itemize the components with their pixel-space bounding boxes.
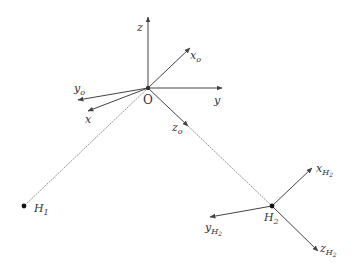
label-z: z xyxy=(137,22,143,33)
axis-zh2-arrow xyxy=(272,206,318,251)
axis-zo-arrow xyxy=(148,88,188,126)
label-zo: zo xyxy=(172,122,183,136)
h2-point xyxy=(270,204,275,209)
label-y: y xyxy=(214,95,220,106)
line-o-to-h2 xyxy=(188,126,272,206)
origin-point xyxy=(146,86,150,90)
label-h1: H1 xyxy=(34,203,49,217)
label-yo: yo xyxy=(74,83,85,97)
label-xh2: xH2 xyxy=(316,163,333,178)
axis-yo-arrow xyxy=(78,88,148,100)
axis-xh2-arrow xyxy=(272,168,312,206)
axis-x-arrow xyxy=(88,88,148,111)
coordinate-frames-diagram: z y x xo yo zo O H1 H2 xH2 yH2 zH2 xyxy=(0,0,353,267)
label-xo: xo xyxy=(190,50,201,64)
label-h2: H2 xyxy=(264,212,279,226)
h1-point xyxy=(22,204,27,209)
axis-xo-arrow xyxy=(148,48,190,88)
axis-yh2-arrow xyxy=(210,206,272,217)
line-o-to-h1 xyxy=(24,88,148,206)
label-origin: O xyxy=(143,94,153,106)
label-x: x xyxy=(85,114,91,125)
label-yh2: yH2 xyxy=(205,222,222,237)
label-zh2: zH2 xyxy=(320,243,337,258)
